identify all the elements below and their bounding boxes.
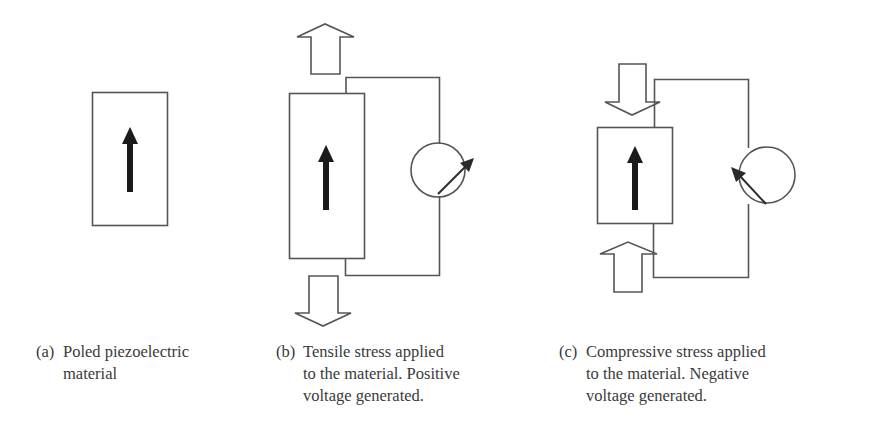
voltmeter-icon [731,147,795,204]
polarization-arrow-icon [318,145,334,210]
bottom-wire [346,196,440,276]
caption-line: voltage generated. [303,385,460,407]
panel-a [93,93,168,226]
polarization-arrow-icon [122,127,138,192]
panel-label: (b) [276,341,295,363]
caption-line: Tensile stress applied [303,341,460,363]
caption-line: to the material. Positive [303,363,460,385]
bottom-wire [654,204,749,278]
top-wire [655,80,749,149]
caption-line: voltage generated. [586,385,766,407]
panel-label: (c) [559,341,577,363]
tensile-stress-down-arrow-icon [295,276,351,326]
caption-line: material [63,363,189,385]
panel-c [598,64,796,292]
caption-panel-a: (a) Poled piezoelectric material [36,341,189,385]
caption-panel-c: (c) Compressive stress applied to the ma… [559,341,766,407]
tensile-stress-up-arrow-icon [297,24,354,74]
polarization-arrow-icon [627,146,643,210]
compressive-stress-down-arrow-icon [605,64,660,115]
caption-line: Compressive stress applied [586,341,766,363]
caption-line: Poled piezoelectric [63,341,189,363]
caption-panel-b: (b) Tensile stress applied to the materi… [276,341,460,407]
top-wire [346,78,440,145]
compressive-stress-up-arrow-icon [600,242,657,292]
panel-label: (a) [36,341,54,363]
caption-line: to the material. Negative [586,363,766,385]
voltmeter-icon [411,143,474,197]
panel-b [290,24,475,326]
